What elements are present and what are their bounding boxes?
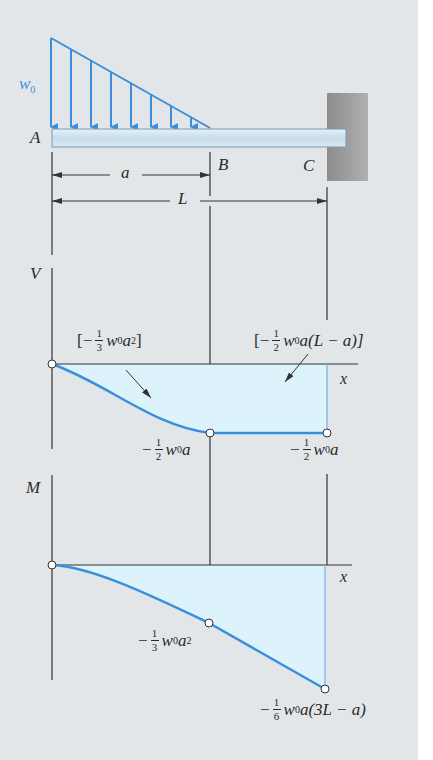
- shear-value-b: − 12 w0a: [142, 437, 190, 462]
- superscript: 2: [186, 635, 191, 646]
- load-subscript: 0: [30, 84, 35, 95]
- term: a(L − a)]: [300, 331, 364, 351]
- fraction: 13: [95, 328, 103, 353]
- load-label: w0: [19, 74, 35, 95]
- shear-value-c: − 12 w0a: [290, 437, 338, 462]
- fraction: 13: [151, 628, 159, 653]
- sign: −: [260, 700, 270, 720]
- moment-diagram: [48, 561, 352, 693]
- shear-area1-label: [− 13 w0a2]: [77, 328, 142, 353]
- point-a-label: A: [30, 128, 40, 148]
- beam: [52, 129, 346, 147]
- bracket-open: [−: [254, 331, 269, 351]
- dimension-a-label: a: [121, 163, 130, 183]
- symbol: w: [106, 331, 117, 351]
- numerator: 1: [304, 437, 310, 448]
- sign: −: [290, 440, 300, 460]
- shear-area2-label: [− 12 w0a(L − a)]: [254, 328, 364, 353]
- fraction: 12: [155, 437, 163, 462]
- shear-x-label: x: [340, 370, 347, 388]
- symbol: w: [284, 700, 295, 720]
- symbol: w: [166, 440, 177, 460]
- fraction: 12: [272, 328, 280, 353]
- numerator: 1: [156, 437, 162, 448]
- moment-value-b: − 13 w0a2: [138, 628, 191, 653]
- moment-axis-label: M: [26, 478, 40, 498]
- term: a: [178, 631, 187, 651]
- numerator: 1: [274, 328, 280, 339]
- fraction: 16: [273, 697, 281, 722]
- numerator: 1: [274, 697, 280, 708]
- symbol: w: [162, 631, 173, 651]
- symbol: w: [314, 440, 325, 460]
- numerator: 1: [97, 328, 103, 339]
- sign: −: [142, 440, 152, 460]
- term: a: [330, 440, 339, 460]
- term: a: [182, 440, 191, 460]
- dimension-lines: [52, 175, 327, 201]
- symbol: w: [283, 331, 294, 351]
- point-c-label: C: [303, 156, 314, 176]
- dimension-l-label: L: [178, 189, 187, 209]
- sign: −: [138, 631, 148, 651]
- load-symbol: w: [19, 74, 30, 93]
- point-b-label: B: [218, 155, 228, 175]
- denominator: 2: [156, 451, 162, 462]
- term: a(3L − a): [300, 700, 366, 720]
- denominator: 3: [97, 342, 103, 353]
- denominator: 2: [274, 342, 280, 353]
- bracket-open: [−: [77, 331, 92, 351]
- figure: w0 A B C a L V x [− 13 w0a2] [− 12 w0a(L…: [0, 0, 433, 760]
- numerator: 1: [152, 628, 158, 639]
- bracket-close: ]: [136, 331, 142, 351]
- moment-x-label: x: [340, 568, 347, 586]
- shear-axis-label: V: [30, 264, 40, 284]
- diagram-graphics: [0, 0, 433, 760]
- moment-value-c: − 16 w0a(3L − a): [260, 697, 366, 722]
- denominator: 2: [304, 451, 310, 462]
- denominator: 3: [152, 642, 158, 653]
- fraction: 12: [303, 437, 311, 462]
- term: a: [123, 331, 132, 351]
- shear-diagram: [48, 354, 358, 437]
- denominator: 6: [274, 711, 280, 722]
- distributed-load: [51, 38, 210, 128]
